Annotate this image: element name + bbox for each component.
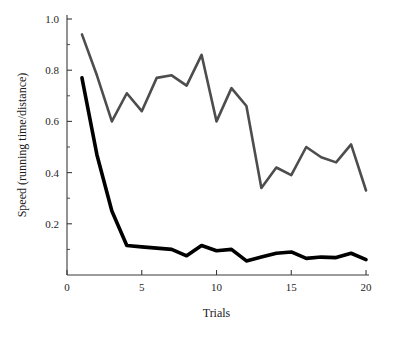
x-tick-label: 0 xyxy=(64,281,70,293)
y-tick-label: 0.8 xyxy=(45,64,59,76)
data-series-group xyxy=(82,34,366,261)
series-line-upper-gray-series xyxy=(82,34,366,190)
x-tick-label: 5 xyxy=(139,281,145,293)
y-axis-major-ticks xyxy=(67,19,72,224)
x-tick-label: 10 xyxy=(211,281,223,293)
y-tick-label: 0.2 xyxy=(45,218,59,230)
line-chart-canvas: 0.20.40.60.81.0 05101520 Trials Speed (r… xyxy=(0,0,398,342)
x-tick-label: 15 xyxy=(286,281,298,293)
x-tick-label: 20 xyxy=(361,281,373,293)
chart-figure: 0.20.40.60.81.0 05101520 Trials Speed (r… xyxy=(0,0,398,342)
y-tick-label: 0.6 xyxy=(45,115,59,127)
x-axis-tick-labels: 05101520 xyxy=(64,281,372,293)
x-axis-title: Trials xyxy=(203,306,231,320)
y-axis-title: Speed (running time/distance) xyxy=(15,73,29,218)
x-axis-ticks xyxy=(67,270,366,275)
y-axis-tick-labels: 0.20.40.60.81.0 xyxy=(45,13,59,230)
y-tick-label: 0.4 xyxy=(45,167,59,179)
y-tick-label: 1.0 xyxy=(45,13,59,25)
